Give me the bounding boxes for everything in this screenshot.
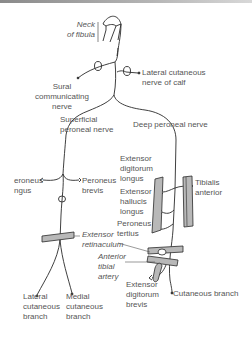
label-lat-cut-calf-1: Lateral cutaneous [142,68,206,77]
label-neck-of-fibula-2: of fibula [67,30,96,39]
label-med-cut-branch-2: cutaneous [66,302,103,311]
label-med-cut-branch-1: Medial [66,292,90,301]
label-superficial-1: Superficial [60,115,98,124]
label-cutaneous-branch: Cutaneous branch [173,289,238,298]
label-peroneus-longus-1: eroneus [14,176,43,185]
label-lat-cut-calf-2: nerve of calf [142,78,186,87]
label-sural-1: Sural [53,82,72,91]
label-edb-2: digitorum [126,290,159,299]
label-edl-3: longus [120,174,144,183]
label-neck-of-fibula-1: Neck [77,20,96,29]
label-ant-tibial-artery-2: tibial [98,262,115,271]
label-edb-3: brevis [126,300,147,309]
extensor-retinaculum-right [147,246,183,282]
label-edl-1: Extensor [120,154,152,163]
label-ant-tibial-artery-1: Anterior [97,252,126,261]
label-retinaculum-2: retinaculum [82,240,124,249]
label-edb-1: Extensor [126,280,158,289]
label-ehl-3: longus [120,207,144,216]
label-sural-3: nerve [52,102,73,111]
label-edl-2: digitorum [120,164,153,173]
label-ehl-1: Extensor [120,187,152,196]
label-deep-peroneal: Deep peroneal nerve [133,120,208,129]
label-ta-2: anterior [195,188,222,197]
label-ant-tibial-artery-3: artery [98,272,119,281]
label-retinaculum-1: Extensor [82,230,114,239]
label-pt-2: tertius [117,229,139,238]
label-peroneus-longus-2: ngus [14,186,31,195]
label-pt-1: Peroneus [117,219,151,228]
label-med-cut-branch-3: branch [66,312,90,321]
label-ta-1: Tibialis [195,178,220,187]
label-lat-cut-branch-2: cutaneous [23,302,60,311]
extensor-retinaculum-left [42,232,74,242]
label-peroneus-brevis-2: brevis [82,186,103,195]
label-peroneus-brevis-1: Peroneus [82,176,116,185]
label-lat-cut-branch-3: branch [23,312,47,321]
label-superficial-2: peroneal nerve [60,125,114,134]
label-lat-cut-branch-1: Lateral [23,292,48,301]
label-sural-2: communicating [35,92,89,101]
peroneal-nerve-diagram: Neck of fibula Sural communicating nerve… [0,0,252,343]
label-ehl-2: hallucis [120,197,147,206]
